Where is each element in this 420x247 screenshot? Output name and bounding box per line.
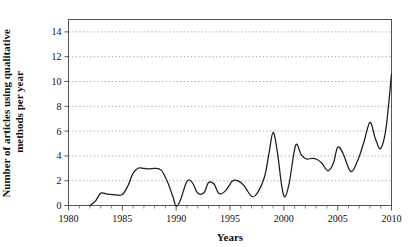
figure-container: 02468101214 1980198519901995200020052010… xyxy=(0,0,420,247)
y-tick-label-14: 14 xyxy=(52,26,62,37)
line-chart: 02468101214 1980198519901995200020052010… xyxy=(0,0,420,247)
x-tick-label-2000: 2000 xyxy=(274,213,294,224)
y-axis-ticks xyxy=(65,32,69,206)
x-tick-label-1995: 1995 xyxy=(220,213,240,224)
x-tick-label-1985: 1985 xyxy=(112,213,132,224)
y-tick-label-6: 6 xyxy=(57,126,62,137)
y-tick-label-8: 8 xyxy=(57,101,62,112)
plot-frame xyxy=(69,20,392,206)
x-axis-title: Years xyxy=(217,231,244,243)
x-axis-ticks xyxy=(69,206,392,211)
y-tick-label-10: 10 xyxy=(52,76,62,87)
y-tick-label-12: 12 xyxy=(52,51,62,62)
y-tick-label-4: 4 xyxy=(57,150,62,161)
y-axis-title: Number of articles using qualitative met… xyxy=(0,26,25,197)
grid-lines xyxy=(69,32,392,181)
x-tick-label-1990: 1990 xyxy=(166,213,186,224)
x-tick-label-1980: 1980 xyxy=(59,213,79,224)
series-line-articles xyxy=(90,74,391,206)
data-series-line xyxy=(90,74,391,206)
y-tick-label-0: 0 xyxy=(57,200,62,211)
y-tick-label-2: 2 xyxy=(57,175,62,186)
x-tick-label-2010: 2010 xyxy=(382,213,402,224)
x-axis-tick-labels: 1980198519901995200020052010 xyxy=(59,213,402,224)
y-axis-tick-labels: 02468101214 xyxy=(52,26,62,211)
x-tick-label-2005: 2005 xyxy=(328,213,348,224)
